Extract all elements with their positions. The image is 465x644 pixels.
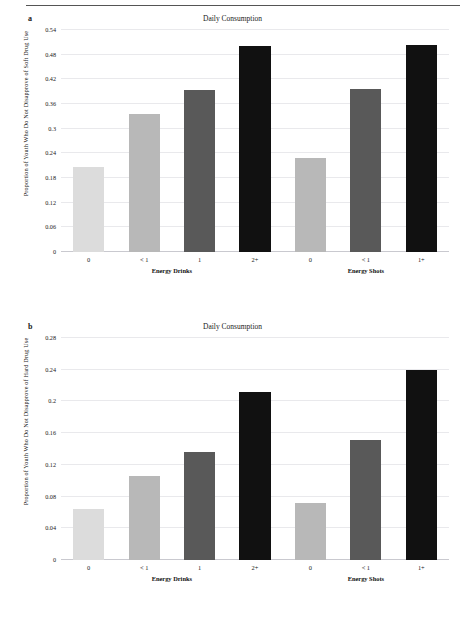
bar xyxy=(295,503,326,560)
bar xyxy=(73,509,104,560)
x-tick-label: 1+ xyxy=(418,564,425,571)
y-tick-label: 0.54 xyxy=(45,26,56,33)
x-group-label: Energy Shots xyxy=(348,267,384,274)
chart-panel-a: a Daily Consumption Proportion of Youth … xyxy=(0,14,465,314)
y-tick-label: 0.04 xyxy=(45,524,56,531)
y-tick-label: 0.08 xyxy=(45,492,56,499)
x-tick-label: < 1 xyxy=(140,256,148,263)
bar xyxy=(295,158,326,252)
x-tick-label: 1 xyxy=(198,564,201,571)
y-tick-label: 0.42 xyxy=(45,75,56,82)
bar xyxy=(129,476,160,560)
x-tick-label: 0 xyxy=(309,256,312,263)
x-tick-label: 2+ xyxy=(252,256,259,263)
y-tick-label: 0.12 xyxy=(45,460,56,467)
bar xyxy=(239,392,270,560)
y-tick-label: 0.16 xyxy=(45,429,56,436)
bar xyxy=(239,46,270,252)
bar xyxy=(184,90,215,252)
y-tick-label: 0.06 xyxy=(45,223,56,230)
y-tick-label: 0.36 xyxy=(45,100,56,107)
plot-area-a: 00.060.120.180.240.30.360.420.480.54 xyxy=(61,30,449,252)
y-axis-label-a: Proportion of Youth Who Do Not Disapprov… xyxy=(22,19,29,209)
y-axis-label-b: Proportion of Youth Who Do Not Disapprov… xyxy=(22,327,29,517)
y-tick-label: 0.18 xyxy=(45,174,56,181)
x-group-labels-a: Energy DrinksEnergy Shots xyxy=(61,267,449,279)
x-tick-label: 0 xyxy=(309,564,312,571)
chart-title-b: Daily Consumption xyxy=(0,322,465,331)
plot-area-b: 00.040.080.120.160.20.240.28 xyxy=(61,338,449,560)
bar xyxy=(406,45,437,252)
bars-layer-a xyxy=(61,30,449,252)
y-tick-label: 0.3 xyxy=(48,124,56,131)
y-tick-label: 0 xyxy=(53,248,56,255)
x-group-label: Energy Drinks xyxy=(152,575,192,582)
y-tick-label: 0.24 xyxy=(45,149,56,156)
y-tick-label: 0.28 xyxy=(45,334,56,341)
y-tick-label: 0.24 xyxy=(45,365,56,372)
y-tick-label: 0 xyxy=(53,556,56,563)
chart-panel-b: b Daily Consumption Proportion of Youth … xyxy=(0,322,465,634)
bars-layer-b xyxy=(61,338,449,560)
bar xyxy=(406,370,437,560)
chart-title-a: Daily Consumption xyxy=(0,14,465,23)
x-tick-label: 1 xyxy=(198,256,201,263)
x-tick-label: < 1 xyxy=(140,564,148,571)
x-tick-label: 1+ xyxy=(418,256,425,263)
x-tick-label: 0 xyxy=(87,256,90,263)
y-tick-label: 0.2 xyxy=(48,397,56,404)
bar xyxy=(350,89,381,252)
x-tick-label: 0 xyxy=(87,564,90,571)
x-group-label: Energy Shots xyxy=(348,575,384,582)
bar xyxy=(73,167,104,252)
bar xyxy=(184,452,215,560)
x-tick-label: 2+ xyxy=(252,564,259,571)
y-tick-label: 0.12 xyxy=(45,198,56,205)
page-header-rule xyxy=(26,5,460,6)
x-tick-label: < 1 xyxy=(362,256,370,263)
bar xyxy=(129,114,160,252)
x-group-label: Energy Drinks xyxy=(152,267,192,274)
x-group-labels-b: Energy DrinksEnergy Shots xyxy=(61,575,449,587)
x-tick-label: < 1 xyxy=(362,564,370,571)
y-tick-label: 0.48 xyxy=(45,50,56,57)
bar xyxy=(350,440,381,561)
